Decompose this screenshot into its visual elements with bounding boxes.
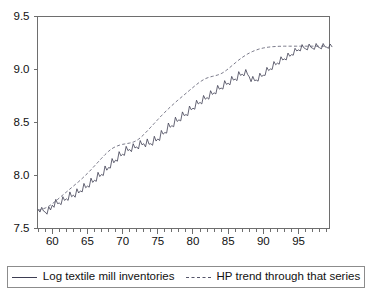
legend-entry-trend: HP trend through that series: [186, 271, 361, 283]
svg-text:8.0: 8.0: [14, 169, 30, 181]
svg-text:75: 75: [151, 235, 164, 247]
svg-text:90: 90: [257, 235, 270, 247]
svg-text:8.5: 8.5: [14, 116, 30, 128]
legend-entry-series: Log textile mill inventories: [12, 271, 175, 283]
legend-swatch-dashed-icon: [186, 277, 211, 278]
trend-line-path: [38, 46, 325, 210]
chart-legend: Log textile mill inventories HP trend th…: [7, 266, 365, 288]
svg-text:65: 65: [81, 235, 94, 247]
svg-text:70: 70: [116, 235, 129, 247]
legend-swatch-solid-icon: [12, 277, 37, 278]
svg-text:60: 60: [46, 235, 59, 247]
axes: [38, 17, 330, 229]
line-chart-plot: 9.59.08.58.07.5 6065707580859095: [0, 0, 373, 262]
svg-text:7.5: 7.5: [14, 222, 30, 234]
legend-label-trend: HP trend through that series: [217, 271, 361, 283]
svg-text:85: 85: [222, 235, 235, 247]
svg-text:9.0: 9.0: [14, 63, 30, 75]
y-axis-ticks: 9.59.08.58.07.5: [14, 10, 38, 234]
svg-text:95: 95: [292, 235, 305, 247]
data-series: [38, 44, 332, 215]
x-axis-ticks: 6065707580859095: [38, 229, 326, 247]
svg-text:9.5: 9.5: [14, 10, 30, 22]
chart-figure: 9.59.08.58.07.5 6065707580859095 Log tex…: [0, 0, 373, 296]
svg-text:80: 80: [187, 235, 200, 247]
series-line-path: [38, 44, 332, 215]
legend-label-series: Log textile mill inventories: [43, 271, 175, 283]
